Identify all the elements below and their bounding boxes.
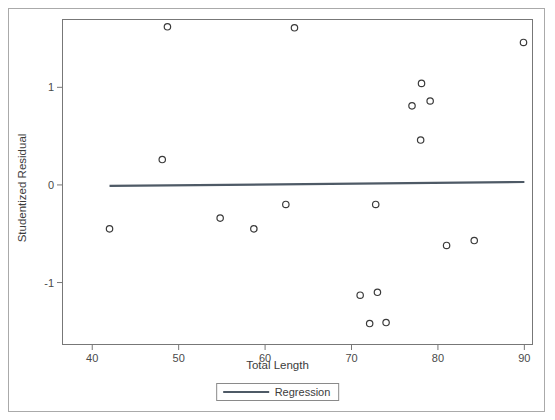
- screenshot-root: 405060708090 10-1 Total Length Studentiz…: [0, 0, 555, 420]
- y-axis-title: Studentized Residual: [16, 103, 28, 273]
- x-axis-title: Total Length: [0, 359, 555, 371]
- legend: Regression: [216, 383, 340, 401]
- legend-line-swatch: [223, 391, 269, 393]
- y-tick-label-1: 1: [32, 81, 54, 93]
- legend-label-regression: Regression: [275, 386, 331, 398]
- y-tick-label-neg1: -1: [32, 277, 54, 289]
- y-tick-label-0: 0: [32, 179, 54, 191]
- plot-area-frame: [62, 19, 533, 345]
